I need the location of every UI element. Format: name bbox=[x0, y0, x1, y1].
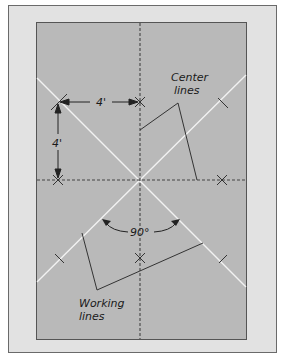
floor-panel bbox=[37, 23, 247, 340]
working-lines-label-line1: Working bbox=[79, 297, 125, 310]
center-lines-label-line2: lines bbox=[174, 84, 200, 97]
angle-label: 90° bbox=[130, 226, 150, 239]
layout-diagram: 4' 4' Center lines 90° Working lines bbox=[0, 0, 281, 357]
working-lines-label-line2: lines bbox=[79, 310, 105, 323]
vertical-dimension-label: 4' bbox=[52, 137, 62, 150]
center-lines-label-line1: Center bbox=[171, 71, 210, 84]
horizontal-dimension-label: 4' bbox=[96, 96, 106, 109]
